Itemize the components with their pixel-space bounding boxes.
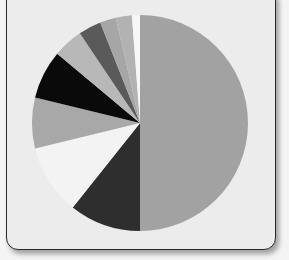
pie-slice-1 bbox=[140, 15, 248, 231]
pie-chart bbox=[0, 0, 289, 260]
